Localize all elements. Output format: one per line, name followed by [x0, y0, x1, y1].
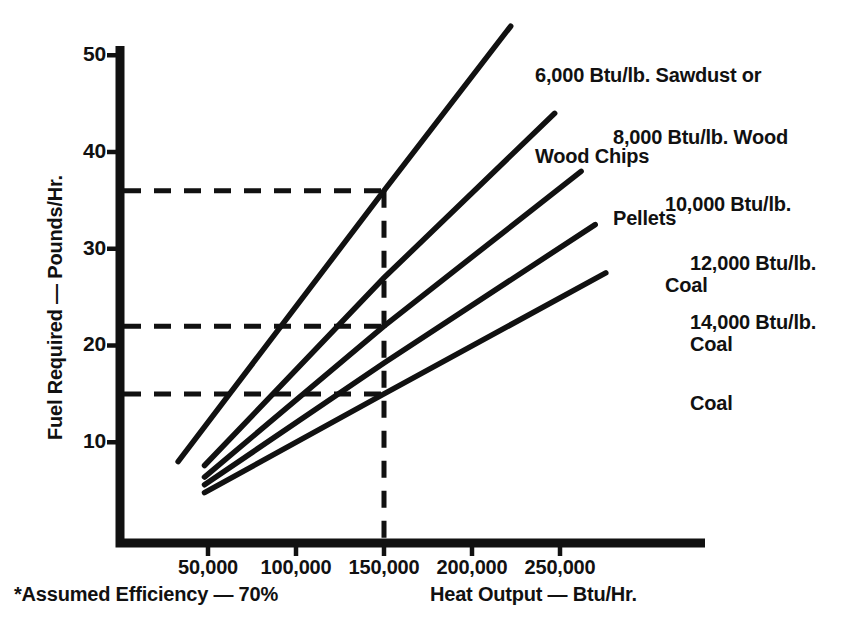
- series-label-line-2: Coal: [690, 390, 816, 417]
- series-line-8000-btu: [205, 113, 555, 465]
- y-axis-title: Fuel Required — Pounds/Hr.: [44, 175, 67, 440]
- y-tick-label-40: 40: [46, 139, 106, 163]
- series-line-14000-btu: [205, 273, 606, 493]
- series-label-line-1: 14,000 Btu/lb.: [690, 309, 816, 336]
- y-tick-label-50: 50: [46, 42, 106, 66]
- efficiency-footnote: *Assumed Efficiency — 70%: [14, 583, 278, 606]
- x-tick-label-250000: 250,000: [505, 556, 615, 579]
- series-label-14000-btu: 14,000 Btu/lb. Coal: [690, 255, 816, 471]
- fuel-required-chart: 50 40 30 20 10 50,000 100,000 150,000 20…: [0, 0, 846, 623]
- x-axis-title: Heat Output — Btu/Hr.: [430, 583, 637, 606]
